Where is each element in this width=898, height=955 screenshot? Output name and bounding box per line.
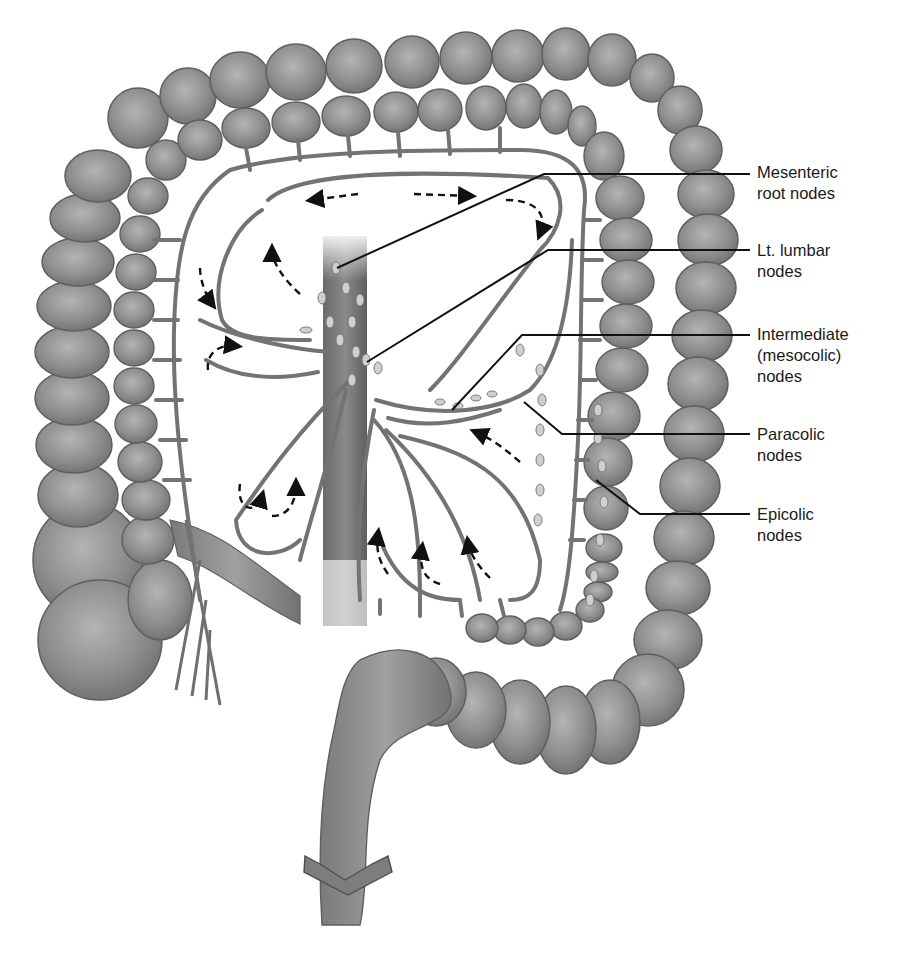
label-paracolic-nodes: Paracolic nodes [757,424,825,466]
label-mesenteric-root-nodes: Mesenteric root nodes [757,162,838,204]
label-epicolic-nodes: Epicolic nodes [757,504,814,546]
label-lt-lumbar-nodes: Lt. lumbar nodes [757,240,830,282]
label-intermediate-mesocolic-nodes: Intermediate (mesocolic) nodes [757,324,849,387]
colon-lymphatics-diagram [0,0,898,955]
